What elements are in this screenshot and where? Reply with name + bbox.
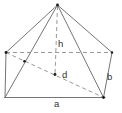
apex-dot — [56, 4, 59, 7]
edge-apex-backright — [58, 5, 113, 53]
frontright-corner-dot — [102, 96, 105, 99]
edge-apex-frontleft — [5, 5, 58, 98]
base-left-edge — [5, 53, 6, 98]
base-center-dot — [54, 73, 57, 76]
backright-corner-dot — [111, 51, 113, 53]
backleft-corner-dot — [5, 51, 8, 54]
diagonal-label: d — [62, 69, 67, 80]
pyramid-diagram: h d b a — [0, 0, 122, 113]
edge-apex-frontright — [58, 5, 104, 98]
pyramid-svg: h d b a — [0, 0, 122, 113]
side-a-label: a — [54, 98, 60, 109]
edge-apex-backleft — [6, 5, 58, 53]
height-label: h — [58, 38, 63, 49]
side-b-label: b — [107, 71, 112, 82]
diagonal-edge-crossing-dot — [23, 60, 26, 63]
